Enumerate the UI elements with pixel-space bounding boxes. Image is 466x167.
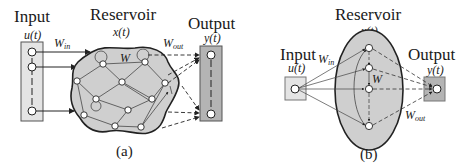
input-var: u(t) — [24, 28, 41, 42]
input-var: u(t) — [288, 61, 305, 75]
reservoir-node — [125, 107, 131, 113]
reservoir-label: Reservoir — [335, 5, 401, 24]
reservoir-node — [365, 85, 372, 92]
output-node — [207, 110, 215, 118]
input-node — [28, 48, 36, 56]
caption-a: (a) — [116, 143, 133, 160]
input-label: Input — [14, 7, 50, 26]
input-node — [28, 63, 36, 71]
w-in-label: Win — [318, 52, 334, 67]
reservoir-node — [162, 80, 168, 86]
input-node — [291, 85, 299, 93]
reservoir-computing-diagram: Input u(t) Reservoir x(t) Output y(t) Wi… — [0, 0, 466, 167]
reservoir-node — [119, 79, 125, 85]
reservoir-node — [100, 61, 106, 67]
caption-b: (b) — [360, 146, 378, 163]
reservoir-node — [142, 59, 148, 65]
w-out-label: Wout — [163, 36, 184, 51]
w-in-label: Win — [54, 36, 70, 51]
reservoir-label: Reservoir — [90, 5, 156, 24]
reservoir-node — [74, 78, 80, 84]
panel-b: Reservoir x(t) Input u(t) Output y(t) Wi… — [280, 5, 456, 163]
output-label: Output — [408, 45, 456, 64]
w-label: W — [120, 51, 131, 65]
w-label: W — [372, 72, 383, 86]
output-node — [207, 51, 215, 59]
reservoir-node — [138, 124, 144, 130]
reservoir-node — [93, 96, 99, 102]
reservoir-node — [365, 122, 372, 129]
reservoir-node — [365, 64, 372, 71]
panel-a: Input u(t) Reservoir x(t) Output y(t) Wi… — [14, 5, 236, 160]
input-node — [28, 107, 36, 115]
output-var: y(t) — [426, 63, 444, 77]
reservoir-var: x(t) — [112, 25, 130, 39]
reservoir-node — [149, 96, 155, 102]
w-out-label: Wout — [405, 108, 426, 123]
reservoir-node — [365, 44, 372, 51]
output-var: y(t) — [203, 31, 221, 45]
reservoir-node — [81, 112, 87, 118]
output-node — [433, 85, 441, 93]
reservoir-node — [112, 123, 118, 129]
